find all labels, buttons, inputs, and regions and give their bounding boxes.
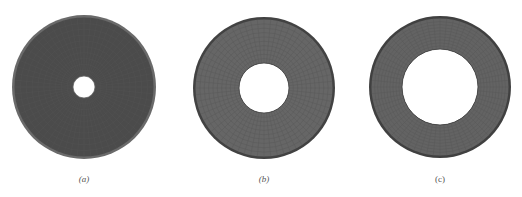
- caption-a: (a): [79, 174, 90, 184]
- annular-disc-mesh-figure: (a) (b) (c): [0, 0, 522, 197]
- disc-panels: [0, 0, 522, 197]
- caption-b: (b): [259, 174, 270, 184]
- disc-panel-c: [369, 16, 511, 158]
- disc-panel-a: [12, 15, 156, 159]
- caption-c: (c): [435, 174, 445, 184]
- disc-panel-b: [193, 17, 335, 159]
